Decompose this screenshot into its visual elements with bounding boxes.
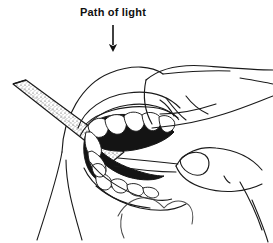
illustration-canvas [0, 0, 273, 243]
figure-root: Path of light [0, 0, 273, 243]
path-of-light-label: Path of light [68, 6, 158, 19]
